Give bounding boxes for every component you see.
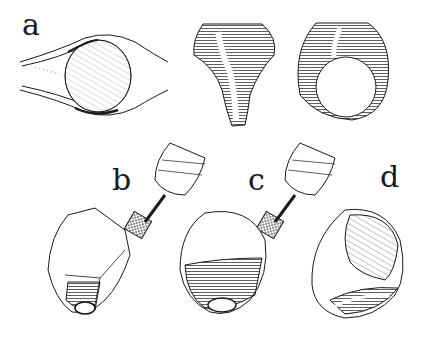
label-d: d (380, 162, 399, 192)
label-b: b (112, 165, 131, 195)
ring-making-drawing (0, 0, 425, 339)
panel-a-side-view (298, 23, 389, 120)
label-c: c (248, 165, 265, 195)
panel-a-top-view (20, 35, 168, 115)
label-a: a (22, 10, 40, 40)
panel-a-front-view (194, 24, 275, 126)
panel-d-finished-ring (312, 209, 403, 318)
